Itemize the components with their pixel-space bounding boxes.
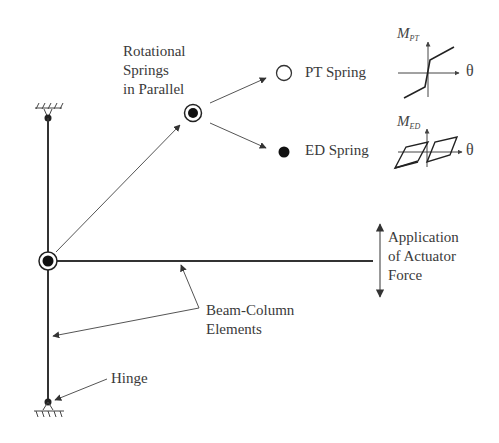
ed-spring-graph: [395, 129, 462, 168]
joint-spring-icon: [39, 252, 57, 270]
pt-spring-graph: [398, 42, 459, 98]
pt-graph-y-label: MPT: [397, 25, 419, 43]
ed-graph-x-label: θ: [466, 141, 474, 159]
ed-graph-y-label: MED: [397, 113, 420, 131]
hinge-label: Hinge: [111, 369, 148, 388]
pt-spring-label: PT Spring: [305, 63, 366, 82]
ed-spring-label: ED Spring: [305, 141, 369, 160]
actuator-force-label: Application of Actuator Force: [388, 228, 459, 285]
ed-spring-icon: [279, 147, 290, 158]
beam-column-label: Beam-Column Elements: [206, 301, 294, 339]
frame-diagram: [0, 0, 499, 443]
pt-spring-icon: [277, 66, 292, 81]
pt-graph-x-label: θ: [466, 62, 474, 80]
hinge-support-icon: [34, 399, 64, 418]
rotational-springs-label: Rotational Springs in Parallel: [123, 42, 186, 99]
rotational-spring-symbol: [185, 105, 202, 122]
